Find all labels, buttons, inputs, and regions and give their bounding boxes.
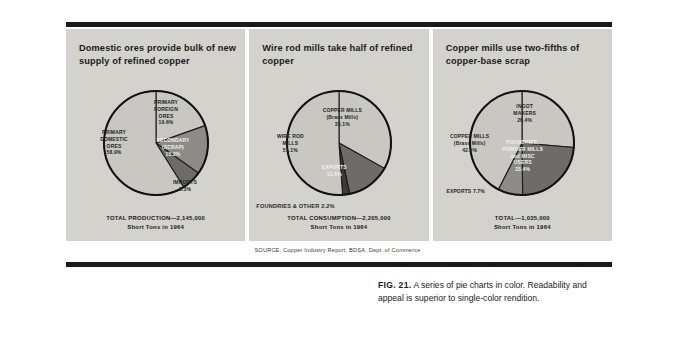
panel-title-production: Domestic ores provide bulk of new supply… xyxy=(79,42,237,69)
pie-label-ingot-makers: INGOT MAKERS 26.4% xyxy=(501,103,549,123)
pie-label-primary-foreign-ores: PRIMARY FOREIGN ORES 19.6% xyxy=(139,99,193,126)
panel-totals-scrap: TOTAL—1,035,000 Short Tons in 1964 xyxy=(439,214,606,232)
pie-panel-consumption: Wire rod mills take half of refined copp… xyxy=(249,29,428,241)
panel-totals-consumption: TOTAL CONSUMPTION—2,205,000 Short Tons i… xyxy=(255,214,422,232)
panel-title-consumption: Wire rod mills take half of refined copp… xyxy=(262,42,420,69)
pie-panel-scrap: Copper mills use two-fifths of copper-ba… xyxy=(433,29,612,241)
caption-label: FIG. 21. xyxy=(378,280,411,290)
pie-label-foundries-other: FOUNDRIES & OTHER 2.2% xyxy=(256,203,334,209)
pie-label-exports-scrap: EXPORTS 7.7% xyxy=(437,188,495,195)
panel-totals-production: TOTAL PRODUCTION—2,145,000 Short Tons in… xyxy=(72,214,239,232)
total-sub: Short Tons in 1964 xyxy=(255,223,422,232)
total-sub: Short Tons in 1964 xyxy=(439,223,606,232)
top-rule xyxy=(66,22,612,27)
pie-chart-panels: Domestic ores provide bulk of new supply… xyxy=(66,29,612,241)
pie-label-imports: IMPORTS 6.3% xyxy=(162,179,208,193)
panel-title-scrap: Copper mills use two-fifths of copper-ba… xyxy=(446,42,604,69)
pie-label-foundries-powder-mills: FOUNDRIES, POWDER MILLS and MISC USERS 2… xyxy=(495,139,551,173)
total-label: TOTAL—1,035,000 xyxy=(439,214,606,223)
pie-label-wire-rod-mills: WIRE ROD MILLS 51.1% xyxy=(263,133,317,153)
figure-page: Domestic ores provide bulk of new supply… xyxy=(0,0,675,337)
pie-chart-production: PRIMARY DOMESTIC ORES 58.9% PRIMARY FORE… xyxy=(66,87,245,205)
bottom-rule xyxy=(66,262,612,267)
pie-label-exports: EXPORTS 13.6% xyxy=(311,164,357,178)
pie-chart-scrap: COPPER MILLS (Brass Mills) 42.5% INGOT M… xyxy=(433,87,612,205)
pie-panel-production: Domestic ores provide bulk of new supply… xyxy=(66,29,245,241)
total-label: TOTAL PRODUCTION—2,145,000 xyxy=(72,214,239,223)
pie-label-copper-mills-brass-scrap: COPPER MILLS (Brass Mills) 42.5% xyxy=(439,133,501,153)
pie-label-secondary-scrap: SECONDARY (SCRAP) 15.2% xyxy=(144,137,202,157)
total-label: TOTAL CONSUMPTION—2,205,000 xyxy=(255,214,422,223)
pie-label-copper-mills-brass: COPPER MILLS (Brass Mills) 33.1% xyxy=(311,107,373,127)
total-sub: Short Tons in 1964 xyxy=(72,223,239,232)
pie-chart-consumption: WIRE ROD MILLS 51.1% COPPER MILLS (Brass… xyxy=(249,87,428,205)
pie-label-primary-domestic-ores: PRIMARY DOMESTIC ORES 58.9% xyxy=(86,129,142,156)
source-line: SOURCE: Copper Industry Report, BDSA, De… xyxy=(0,247,675,253)
figure-caption: FIG. 21. A series of pie charts in color… xyxy=(378,279,612,305)
